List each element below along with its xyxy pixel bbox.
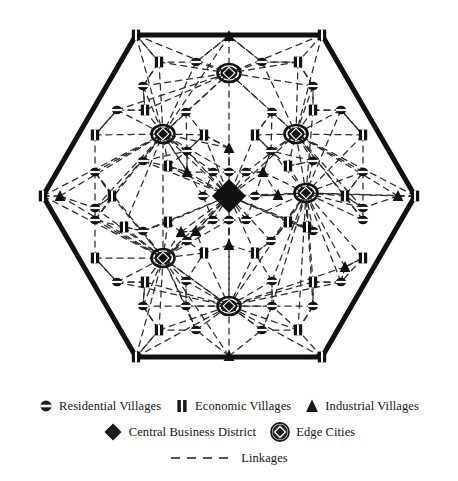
legend-label-linkages: Linkages — [241, 451, 288, 466]
economic-node — [294, 325, 302, 336]
economic-node — [120, 222, 128, 233]
economic-node — [284, 161, 292, 172]
residential-node — [358, 168, 368, 176]
residential-village-icon — [39, 399, 53, 413]
residential-node — [90, 216, 100, 224]
residential-node — [224, 168, 234, 176]
economic-node — [108, 191, 116, 202]
legend: Residential Villages Economic Villages — [0, 393, 458, 481]
economic-village-icon — [175, 399, 189, 413]
economic-node — [155, 57, 163, 68]
residential-node — [257, 326, 267, 334]
residential-node — [138, 82, 148, 90]
economic-node — [309, 105, 317, 116]
legend-row-1: Residential Villages Economic Villages — [0, 393, 458, 419]
residential-node — [138, 302, 148, 310]
edge-node — [295, 184, 318, 202]
economic-node — [91, 253, 99, 264]
economic-node — [341, 191, 349, 202]
residential-node — [181, 277, 191, 285]
legend-item-edge-cities: Edge Cities — [270, 422, 355, 442]
economic-node — [318, 30, 326, 41]
economic-node — [318, 352, 326, 363]
dashed-line-icon — [170, 453, 232, 463]
legend-item-linkages: Linkages — [170, 451, 288, 466]
economic-node — [284, 217, 292, 228]
residential-node — [308, 302, 318, 310]
edge-node — [152, 249, 175, 267]
legend-row-2: Central Business District Edge Cities — [0, 419, 458, 445]
economic-node — [164, 161, 172, 172]
edge-node — [152, 125, 175, 143]
residential-node — [358, 216, 368, 224]
legend-row-3: Linkages — [0, 445, 458, 471]
residential-node — [250, 192, 260, 200]
economic-node — [303, 222, 311, 233]
economic-node — [294, 57, 302, 68]
residential-node — [182, 237, 192, 245]
legend-label-edge-cities: Edge Cities — [296, 425, 355, 440]
economic-node — [359, 130, 367, 141]
economic-node — [164, 217, 172, 228]
residential-node — [336, 106, 346, 114]
legend-label-industrial-villages: Industrial Villages — [325, 399, 419, 414]
industrial-node — [340, 261, 351, 272]
residential-node — [138, 157, 148, 165]
residential-node — [191, 58, 201, 66]
edge-node — [218, 64, 241, 82]
economic-node — [132, 30, 140, 41]
economic-node — [200, 248, 208, 259]
economic-node — [309, 277, 317, 288]
legend-item-industrial-villages: Industrial Villages — [305, 399, 419, 414]
residential-node — [336, 278, 346, 286]
legend-label-central-business-district: Central Business District — [129, 425, 257, 440]
settlement-nodes — [39, 30, 419, 363]
economic-node — [155, 325, 163, 336]
residential-node — [266, 147, 276, 155]
residential-node — [224, 216, 234, 224]
edge-city-icon — [270, 422, 290, 442]
industrial-village-icon — [305, 399, 319, 413]
legend-item-economic-villages: Economic Villages — [175, 399, 291, 414]
residential-node — [241, 216, 251, 224]
residential-node — [138, 227, 148, 235]
economic-node — [132, 352, 140, 363]
economic-node — [251, 130, 259, 141]
residential-node — [181, 108, 191, 116]
residential-node — [358, 204, 368, 212]
legend-item-residential-villages: Residential Villages — [39, 399, 161, 414]
economic-node — [200, 130, 208, 141]
residential-node — [257, 58, 267, 66]
central-business-district-icon — [103, 422, 123, 442]
industrial-node — [224, 239, 235, 250]
residential-node — [112, 106, 122, 114]
residential-node — [208, 168, 218, 176]
residential-node — [267, 277, 277, 285]
economic-node — [141, 277, 149, 288]
economic-node — [39, 191, 47, 202]
residential-node — [90, 168, 100, 176]
residential-node — [191, 326, 201, 334]
residential-node — [90, 204, 100, 212]
residential-node — [182, 147, 192, 155]
residential-node — [208, 216, 218, 224]
hexagon-diagram — [0, 0, 458, 390]
residential-node — [267, 302, 277, 310]
residential-node — [266, 237, 276, 245]
residential-node — [181, 302, 191, 310]
residential-node — [198, 192, 208, 200]
economic-node — [91, 130, 99, 141]
residential-node — [308, 157, 318, 165]
residential-node — [241, 168, 251, 176]
legend-item-central-business-district: Central Business District — [103, 422, 257, 442]
edge-node — [285, 125, 308, 143]
economic-node — [359, 253, 367, 264]
economic-node — [251, 248, 259, 259]
edge-node — [218, 297, 241, 315]
legend-label-economic-villages: Economic Villages — [195, 399, 291, 414]
residential-node — [267, 108, 277, 116]
economic-node — [141, 105, 149, 116]
polycentric-urban-diagram-figure: Residential Villages Economic Villages — [0, 0, 458, 481]
residential-node — [112, 278, 122, 286]
legend-label-residential-villages: Residential Villages — [59, 399, 161, 414]
